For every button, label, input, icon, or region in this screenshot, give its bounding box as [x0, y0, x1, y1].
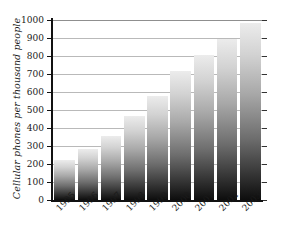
y-axis-tick-label: 0 [14, 196, 44, 205]
y-axis-tick-right [262, 128, 267, 129]
y-axis-tick-label: 300 [14, 142, 44, 151]
y-axis-tick-label: 400 [14, 124, 44, 133]
y-axis-tick-label: 500 [14, 106, 44, 115]
bar [194, 55, 215, 200]
y-axis-tick-right [262, 56, 267, 57]
y-axis-tick-right [262, 146, 267, 147]
y-axis-tick-label: 700 [14, 70, 44, 79]
y-axis-tick-right [262, 92, 267, 93]
bar [240, 23, 261, 200]
y-axis-tick-right [262, 110, 267, 111]
y-axis-tick-right [262, 20, 267, 21]
y-axis-tick-right [262, 38, 267, 39]
bar-chart: Cellular phones per thousand people 1000… [0, 0, 281, 244]
bar [217, 39, 238, 200]
y-axis-tick-labels: 10009008007006005004003002001000 [14, 0, 44, 244]
y-axis-tick-right [262, 74, 267, 75]
y-axis-tick-right [262, 164, 267, 165]
y-axis-tick-label: 800 [14, 52, 44, 61]
bars-group [53, 20, 262, 200]
y-axis-tick-label: 200 [14, 160, 44, 169]
y-axis-tick-label: 1000 [14, 16, 44, 25]
bar [170, 71, 191, 200]
y-axis-tick-label: 900 [14, 34, 44, 43]
x-axis-tick-labels: 199519961997199819992000200120022003 [53, 202, 268, 244]
y-axis-tick-label: 600 [14, 88, 44, 97]
y-axis-tick-label: 100 [14, 178, 44, 187]
